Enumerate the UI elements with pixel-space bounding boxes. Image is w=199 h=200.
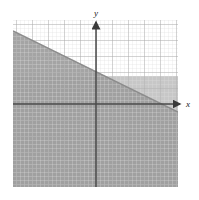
coordinate-plane-svg: y x <box>0 0 199 200</box>
figure-canvas: y x <box>0 0 199 200</box>
y-axis-label: y <box>93 8 98 18</box>
x-axis-label: x <box>185 99 190 109</box>
